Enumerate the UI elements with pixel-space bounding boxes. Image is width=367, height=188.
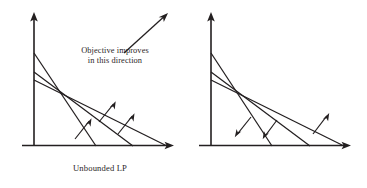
caption-unbounded-lp: Unbounded LP: [38, 163, 162, 173]
constraint-lines: [211, 53, 344, 146]
objective-annotation: Objective improves in this direction: [56, 46, 174, 67]
y-axis: [30, 12, 38, 145]
constraint-line-2: [211, 72, 310, 146]
constraint-line-3: [34, 80, 167, 146]
panel-unbounded-lp: Objective improves in this direction Unb…: [0, 0, 184, 188]
objective-annotation-line1: Objective improves: [56, 46, 174, 56]
constraint-line-1: [211, 53, 272, 146]
lp-cases-figure: Objective improves in this direction Unb…: [0, 0, 367, 188]
panel-infeasible-lp: No feasible solutions exist Infeasible L…: [183, 0, 367, 188]
constraint-line-2: [34, 72, 133, 146]
gradient-arrow-2: [263, 120, 277, 139]
gradient-arrow-1: [235, 117, 251, 137]
gradient-direction-arrows: [75, 101, 135, 139]
constraint-line-1: [34, 53, 96, 146]
objective-annotation-line2: in this direction: [56, 56, 174, 66]
unbounded-lp-plot: [0, 0, 184, 188]
constraint-lines: [34, 53, 167, 146]
gradient-arrow-3: [313, 113, 329, 134]
y-axis: [207, 12, 215, 145]
constraint-line-3: [211, 80, 344, 146]
gradient-arrow-2: [118, 113, 135, 134]
gradient-direction-arrows: [235, 113, 329, 139]
x-axis: [22, 142, 174, 150]
infeasible-lp-plot: [183, 0, 367, 188]
x-axis: [199, 142, 351, 150]
